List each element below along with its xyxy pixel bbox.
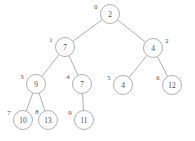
node-index-label: 1 bbox=[49, 36, 52, 43]
node-value: 10 bbox=[19, 116, 27, 125]
tree-node[interactable]: 138 bbox=[35, 108, 57, 130]
node-value: 4 bbox=[121, 81, 125, 90]
node-index-label: 4 bbox=[66, 73, 70, 80]
node-value: 4 bbox=[151, 44, 155, 53]
tree-node[interactable]: 126 bbox=[156, 74, 181, 95]
node-index-label: 9 bbox=[68, 109, 72, 116]
tree-edge bbox=[26, 93, 33, 111]
tree-node[interactable]: 45 bbox=[107, 74, 132, 95]
tree-node[interactable]: 107 bbox=[7, 109, 32, 130]
node-value: 7 bbox=[63, 43, 67, 52]
node-value: 2 bbox=[108, 10, 112, 19]
nodes-group: 207142937445126107138119 bbox=[7, 3, 181, 130]
tree-edge bbox=[83, 93, 84, 110]
node-index-label: 0 bbox=[94, 3, 98, 10]
node-index-label: 6 bbox=[156, 74, 160, 81]
node-value: 9 bbox=[34, 80, 38, 89]
tree-edge bbox=[69, 56, 78, 76]
node-index-label: 8 bbox=[35, 108, 39, 115]
node-value: 7 bbox=[80, 80, 84, 89]
tree-edge bbox=[42, 54, 59, 76]
node-index-label: 3 bbox=[20, 73, 24, 80]
node-value: 11 bbox=[80, 116, 87, 125]
node-index-label: 7 bbox=[7, 109, 11, 116]
tree-node[interactable]: 93 bbox=[20, 73, 45, 94]
binary-tree-figure: 207142937445126107138119 bbox=[0, 0, 195, 141]
tree-canvas: 207142937445126107138119 bbox=[0, 0, 195, 141]
tree-node[interactable]: 74 bbox=[66, 73, 91, 94]
node-value: 13 bbox=[44, 116, 52, 125]
node-index-label: 5 bbox=[107, 74, 111, 81]
tree-edge bbox=[129, 55, 147, 77]
tree-edge bbox=[117, 20, 145, 42]
tree-edge bbox=[73, 20, 103, 42]
edges-group bbox=[26, 20, 167, 111]
node-value: 12 bbox=[168, 81, 176, 90]
tree-node[interactable]: 42 bbox=[144, 37, 169, 58]
node-index-label: 2 bbox=[165, 37, 168, 44]
tree-node[interactable]: 71 bbox=[49, 36, 74, 57]
tree-node[interactable]: 20 bbox=[94, 3, 119, 24]
tree-edge bbox=[39, 93, 45, 111]
tree-node[interactable]: 119 bbox=[68, 109, 93, 130]
